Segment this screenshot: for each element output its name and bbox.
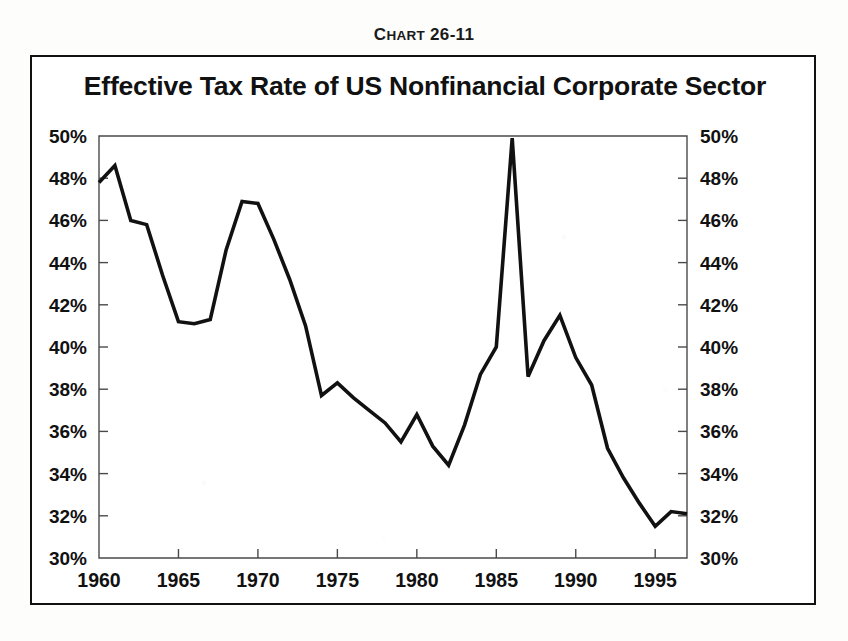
x-axis-labels: 19601965197019751980198519901995 <box>77 569 677 591</box>
data-series-line <box>99 138 687 526</box>
y-axis-right-tick-label: 48% <box>700 168 738 189</box>
y-axis-right-tick-label: 50% <box>700 126 738 147</box>
axis-ticks <box>99 178 687 558</box>
x-axis-tick-label: 1960 <box>77 569 121 591</box>
y-axis-left-tick-label: 30% <box>49 548 87 569</box>
y-axis-left-tick-label: 34% <box>49 464 87 485</box>
y-axis-left-tick-label: 44% <box>49 253 87 274</box>
y-axis-left-tick-label: 46% <box>49 210 87 231</box>
y-axis-right-tick-label: 40% <box>700 337 738 358</box>
y-axis-left-tick-label: 50% <box>49 126 87 147</box>
y-axis-left-tick-label: 48% <box>49 168 87 189</box>
x-axis-tick-label: 1990 <box>554 569 598 591</box>
y-axis-left-labels: 30%32%34%36%38%40%42%44%46%48%50% <box>49 126 87 569</box>
x-axis-tick-label: 1970 <box>236 569 280 591</box>
y-axis-right-tick-label: 44% <box>700 253 738 274</box>
y-axis-left-tick-label: 36% <box>49 421 87 442</box>
y-axis-right-tick-label: 30% <box>700 548 738 569</box>
x-axis-tick-label: 1995 <box>634 569 678 591</box>
figure-caption: CHART 26-11 <box>0 25 848 45</box>
chart-frame: Effective Tax Rate of US Nonfinancial Co… <box>30 55 816 605</box>
plot-area: 30%32%34%36%38%40%42%44%46%48%50% 30%32%… <box>32 57 818 607</box>
y-axis-right-labels: 30%32%34%36%38%40%42%44%46%48%50% <box>700 126 738 569</box>
y-axis-left-tick-label: 38% <box>49 379 87 400</box>
axes-frame <box>99 136 687 558</box>
y-axis-right-tick-label: 42% <box>700 295 738 316</box>
y-axis-right-tick-label: 36% <box>700 421 738 442</box>
y-axis-right-tick-label: 34% <box>700 464 738 485</box>
x-axis-tick-label: 1985 <box>475 569 519 591</box>
x-axis-tick-label: 1980 <box>395 569 439 591</box>
line-chart-svg: 30%32%34%36%38%40%42%44%46%48%50% 30%32%… <box>32 57 818 607</box>
y-axis-right-tick-label: 38% <box>700 379 738 400</box>
y-axis-left-tick-label: 32% <box>49 506 87 527</box>
x-axis-tick-label: 1965 <box>157 569 201 591</box>
x-axis-tick-label: 1975 <box>316 569 360 591</box>
figure-caption-rest: HART <box>386 28 425 43</box>
y-axis-right-tick-label: 32% <box>700 506 738 527</box>
y-axis-left-tick-label: 42% <box>49 295 87 316</box>
y-axis-left-tick-label: 40% <box>49 337 87 358</box>
figure-caption-number: 26-11 <box>425 25 474 44</box>
figure-caption-lead: C <box>374 25 387 44</box>
y-axis-right-tick-label: 46% <box>700 210 738 231</box>
